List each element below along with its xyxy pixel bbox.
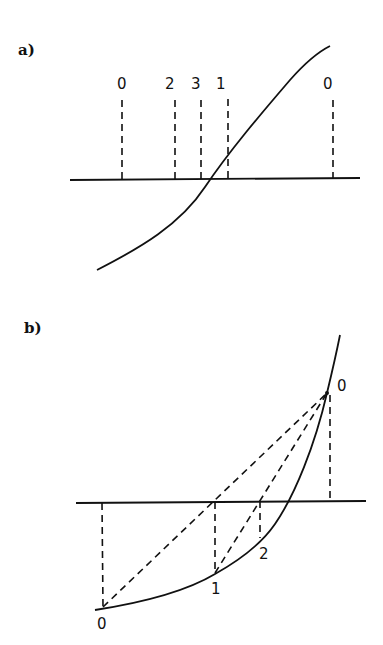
panel-a: a) 0 2 3 1 0 [18,41,360,270]
panel-b-dash-0-bottom [102,503,103,607]
panel-b: b) 0 0 1 2 [24,319,366,633]
panel-b-chord-1 [215,393,327,573]
panel-a-label-3: 3 [191,75,201,93]
panel-a-label-0-left: 0 [117,75,127,93]
panel-b-axis [76,501,366,503]
panel-a-label-2: 2 [165,75,175,93]
panel-b-label-0-bottom: 0 [97,615,107,633]
panel-a-label: a) [18,41,35,59]
panel-b-label: b) [24,319,42,337]
panel-b-point-0-top [325,391,329,395]
panel-a-label-0-right: 0 [323,75,333,93]
panel-b-label-2: 2 [259,545,269,563]
figure-canvas: a) 0 2 3 1 0 b) 0 [0,0,383,645]
panel-a-curve [97,46,330,270]
panel-a-axis [70,178,360,180]
panel-a-label-1: 1 [216,75,226,93]
panel-b-label-0-top: 0 [337,377,347,395]
panel-b-label-1: 1 [211,580,221,598]
